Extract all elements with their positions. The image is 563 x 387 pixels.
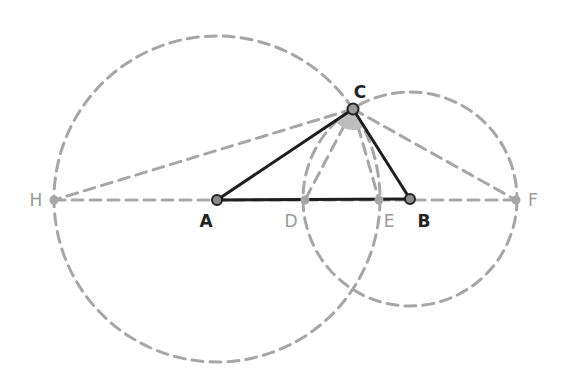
point-b[interactable] (405, 194, 415, 204)
label-c: C (354, 82, 366, 102)
label-a: A (199, 211, 213, 231)
label-f: F (528, 190, 538, 210)
segment-ac (217, 109, 353, 200)
dashed-line-ch (54, 109, 353, 200)
point-h[interactable] (50, 196, 59, 205)
label-e: E (384, 211, 395, 231)
label-d: D (284, 211, 297, 231)
point-f[interactable] (512, 196, 521, 205)
point-e[interactable] (375, 196, 384, 205)
label-h: H (30, 190, 43, 210)
segment-cb (353, 109, 410, 199)
point-c[interactable] (348, 104, 359, 115)
point-a[interactable] (212, 195, 222, 205)
point-d[interactable] (301, 196, 310, 205)
geometry-diagram: ABCDEFH (0, 0, 563, 387)
dashed-line-cf (353, 109, 516, 200)
label-b: B (418, 211, 431, 231)
